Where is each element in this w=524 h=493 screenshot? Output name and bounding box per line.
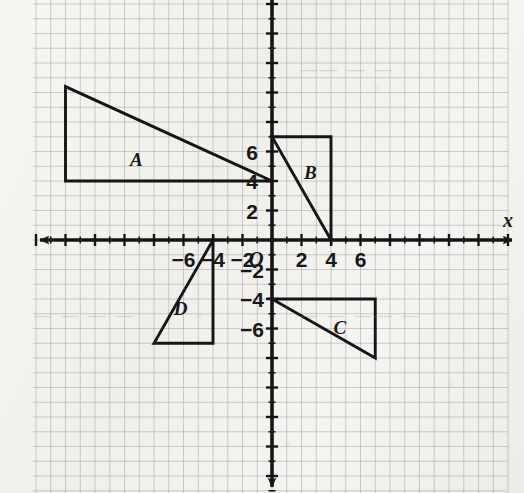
- x-axis-label-2: 2: [296, 249, 308, 270]
- x-axis-label-neg4: −4: [201, 249, 225, 270]
- axis-lines: [40, 0, 512, 487]
- y-axis-label-4: 4: [246, 171, 258, 192]
- triangle-label-d: D: [174, 298, 188, 317]
- x-axis-label-4: 4: [325, 249, 337, 270]
- y-axis-label-2: 2: [246, 200, 258, 221]
- y-axis-label-neg6: −6: [240, 318, 264, 339]
- x-axis-name: x: [503, 210, 513, 230]
- x-axis-label-neg6: −6: [172, 249, 196, 270]
- coordinate-plane-figure: — — — —— — —— ——— — — −6−4−2246642−2−4−6…: [0, 0, 524, 493]
- triangle-label-b: B: [304, 163, 317, 182]
- y-axis-label-6: 6: [246, 141, 258, 162]
- origin-label: O: [248, 249, 263, 270]
- triangle-label-c: C: [334, 318, 347, 337]
- triangle-shapes: [66, 87, 376, 358]
- y-axis-label-neg4: −4: [240, 289, 264, 310]
- triangle-label-a: A: [130, 149, 143, 168]
- x-axis-label-6: 6: [355, 249, 367, 270]
